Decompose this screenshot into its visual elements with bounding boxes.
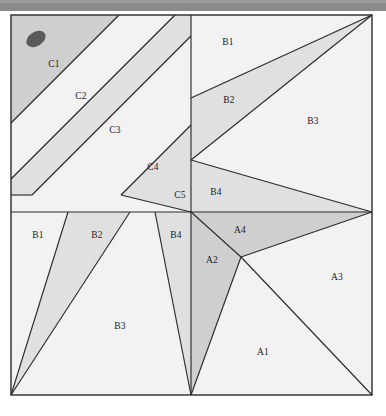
label-B4-top: B4 <box>210 187 222 197</box>
label-B2-top: B2 <box>223 95 235 105</box>
figure-page: C1 C2 C3 C4 C5 B1 B2 B3 B4 B1 B2 B4 B3 A… <box>0 0 386 416</box>
label-B3-top: B3 <box>307 116 319 126</box>
label-B2-bottom: B2 <box>91 230 103 240</box>
label-A1: A1 <box>257 347 269 357</box>
label-C1: C1 <box>48 59 60 69</box>
label-A3: A3 <box>331 272 343 282</box>
label-C4: C4 <box>147 162 159 172</box>
quadrant-bottom-right <box>191 212 372 395</box>
label-B1-top: B1 <box>222 37 234 47</box>
label-C3: C3 <box>109 125 121 135</box>
label-A4: A4 <box>234 225 246 235</box>
label-C5: C5 <box>174 190 186 200</box>
geometric-partition-diagram: C1 C2 C3 C4 C5 B1 B2 B3 B4 B1 B2 B4 B3 A… <box>0 0 386 416</box>
quadrant-top-right <box>191 15 372 212</box>
label-A2: A2 <box>206 255 218 265</box>
label-B1-bottom: B1 <box>32 230 44 240</box>
label-C2: C2 <box>75 91 87 101</box>
label-B4-bottom: B4 <box>170 230 182 240</box>
label-B3-bottom: B3 <box>114 321 126 331</box>
